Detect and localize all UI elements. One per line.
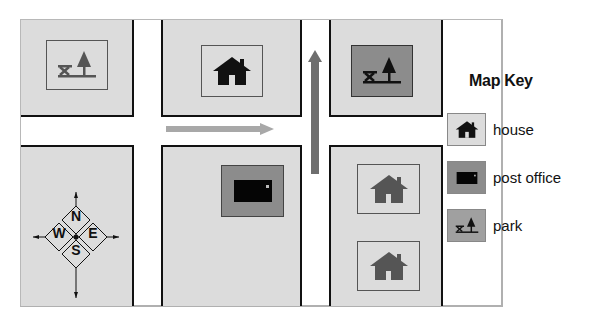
house-icon (212, 55, 252, 87)
key-label-house: house (493, 121, 534, 138)
compass-west-label: W (52, 225, 66, 241)
east-arrow-icon (166, 123, 274, 135)
post-office-icon (456, 172, 478, 184)
map-key-title: Map Key (469, 72, 549, 90)
key-item-park: park (447, 209, 522, 242)
park-icon (362, 55, 402, 87)
block-top-left (21, 20, 134, 117)
block-top-right (329, 20, 443, 117)
house-tile (357, 241, 420, 291)
park-icon (455, 216, 479, 235)
post-office-swatch (447, 161, 486, 194)
block-bottom-right (329, 145, 443, 306)
park-tile (46, 40, 108, 90)
park-swatch (447, 209, 486, 242)
compass-north-label: N (70, 208, 82, 224)
house-swatch (447, 113, 486, 146)
park-icon (57, 49, 97, 81)
key-item-post-office: post office (447, 161, 561, 194)
compass-south-label: S (70, 242, 82, 258)
key-label-park: park (493, 217, 522, 234)
compass-east-label: E (87, 225, 99, 241)
house-tile (201, 45, 263, 97)
house-icon (369, 173, 409, 205)
post-office-icon (234, 180, 272, 202)
house-icon (455, 120, 479, 139)
park-tile (351, 45, 413, 97)
key-item-house: house (447, 113, 534, 146)
block-bottom-middle (161, 145, 302, 306)
key-label-post-office: post office (493, 169, 561, 186)
post-office-tile (221, 165, 284, 217)
north-arrow-icon (308, 50, 322, 174)
house-icon (369, 250, 409, 282)
house-tile (357, 164, 420, 214)
block-top-middle (161, 20, 302, 117)
